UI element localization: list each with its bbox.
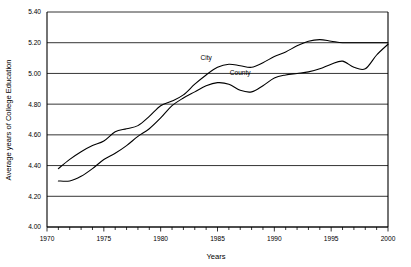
y-tick-label: 4.40 <box>28 162 41 169</box>
y-axis-title: Average years of College Education <box>4 59 13 180</box>
line-chart: 4.004.204.404.604.805.005.205.40 1970197… <box>0 0 411 267</box>
x-tick-label: 1995 <box>324 235 339 242</box>
axis-lines <box>47 12 388 227</box>
x-tick-label: 1990 <box>267 235 282 242</box>
x-tick-label: 1985 <box>210 235 225 242</box>
x-tick-label: 1975 <box>96 235 111 242</box>
y-tick-label: 5.20 <box>28 39 41 46</box>
y-tick-label: 4.80 <box>28 101 41 108</box>
y-tick-label: 4.60 <box>28 131 41 138</box>
x-axis-tick-labels: 1970197519801985199019952000 <box>40 235 396 242</box>
series-label-city: City <box>200 54 212 62</box>
y-tick-label: 5.00 <box>28 70 41 77</box>
x-tick-label: 1980 <box>153 235 168 242</box>
x-tick-label: 1970 <box>40 235 55 242</box>
y-tick-label: 4.00 <box>28 223 41 230</box>
chart-container: 4.004.204.404.604.805.005.205.40 1970197… <box>0 0 411 267</box>
gridlines-group <box>47 12 388 227</box>
series-label-county: County <box>230 69 252 77</box>
x-tick-label: 2000 <box>381 235 396 242</box>
data-series-group <box>58 40 388 182</box>
y-tick-label: 4.20 <box>28 193 41 200</box>
y-axis-tick-labels: 4.004.204.404.604.805.005.205.40 <box>28 8 41 230</box>
y-tick-label: 5.40 <box>28 8 41 15</box>
x-axis-title: Years <box>206 252 225 261</box>
x-axis-tick-marks <box>47 227 388 232</box>
